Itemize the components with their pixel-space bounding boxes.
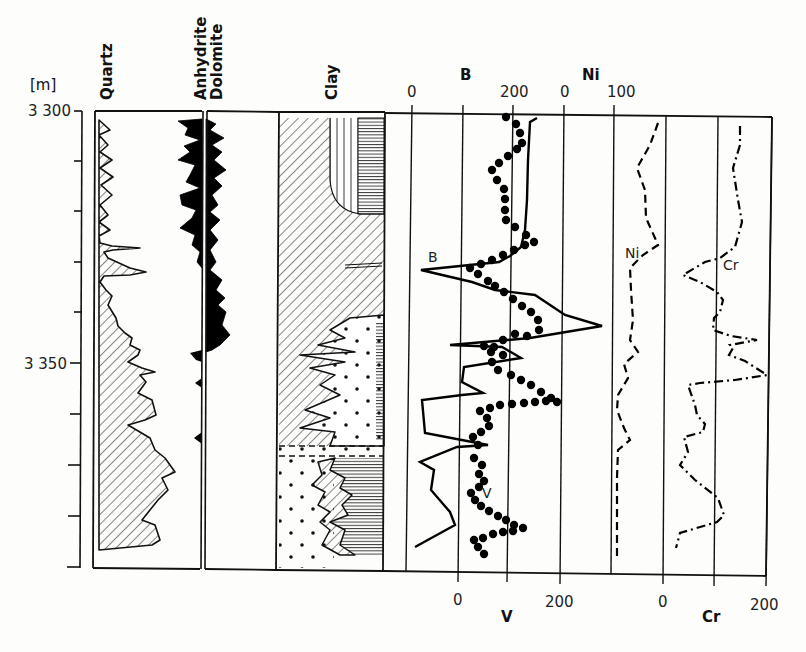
axis-label-b: B bbox=[460, 66, 471, 84]
well-log-chart: [m] 3 300 3 350 Quartz Anhydrite Dolomit… bbox=[0, 0, 806, 652]
top-tick-b-0: 0 bbox=[407, 83, 417, 101]
geochem-panel: B Ni 0 200 0 100 0 200 V 0 200 Cr bbox=[383, 66, 779, 626]
bottom-tick-cr-0: 0 bbox=[658, 593, 668, 611]
column-header-quartz: Quartz bbox=[98, 43, 116, 100]
column-header-dolomite: Dolomite bbox=[208, 24, 226, 100]
curve-label-cr: Cr bbox=[723, 257, 739, 273]
quartz-column bbox=[93, 111, 202, 569]
curve-label-b: B bbox=[428, 249, 438, 265]
depth-unit-label: [m] bbox=[30, 76, 56, 94]
axis-label-ni: Ni bbox=[582, 66, 600, 84]
top-tick-b-200: 200 bbox=[500, 83, 529, 101]
series-cr-line bbox=[676, 126, 767, 548]
top-tick-ni-100: 100 bbox=[607, 83, 636, 101]
column-header-clay: Clay bbox=[323, 64, 341, 100]
depth-axis: [m] 3 300 3 350 bbox=[24, 76, 82, 568]
top-tick-ni-0: 0 bbox=[560, 83, 570, 101]
series-ni-line bbox=[617, 123, 658, 558]
bottom-tick-v-200: 200 bbox=[545, 593, 574, 611]
depth-tick-3300: 3 300 bbox=[28, 102, 71, 120]
bottom-tick-v-0: 0 bbox=[453, 591, 463, 609]
column-headers: Quartz Anhydrite Dolomite Clay bbox=[98, 17, 341, 100]
curve-label-ni: Ni bbox=[625, 245, 639, 261]
clay-column bbox=[276, 112, 385, 571]
anhydrite-dolomite-column bbox=[178, 111, 278, 570]
depth-tick-3350: 3 350 bbox=[24, 355, 67, 373]
axis-label-v: V bbox=[501, 608, 513, 626]
bottom-tick-cr-200: 200 bbox=[750, 596, 779, 614]
axis-label-cr: Cr bbox=[702, 608, 721, 626]
curve-label-v: V bbox=[482, 485, 492, 501]
